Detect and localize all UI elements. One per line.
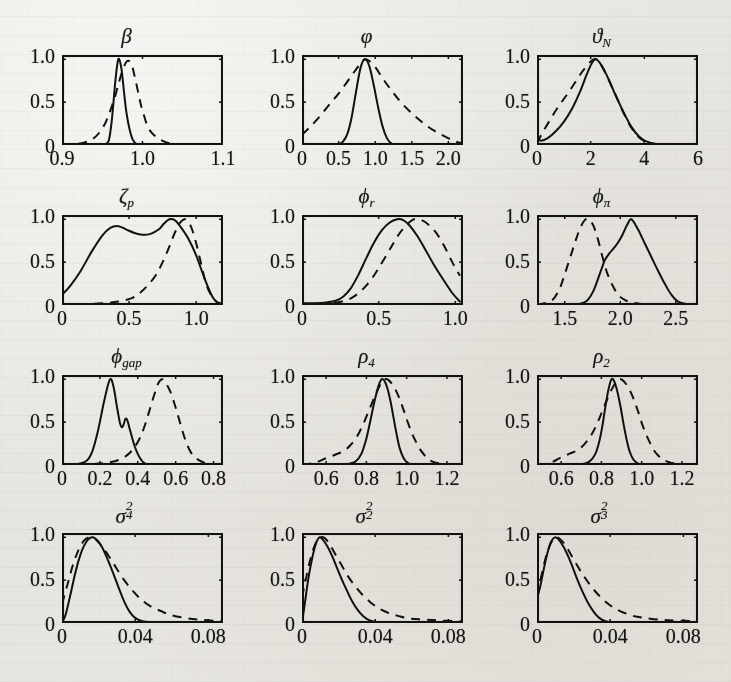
y-tick-label: 0.5 [30, 91, 55, 111]
plot-area [62, 375, 223, 465]
x-tick-label: 1.0 [130, 148, 155, 168]
x-tick-label: 1.0 [443, 308, 468, 328]
density-curve-posterior [62, 59, 223, 145]
y-axis-labels: 1.00.50 [5, 533, 57, 623]
x-axis-labels: 00.040.08 [5, 626, 248, 652]
x-axis-labels: 0.60.81.01.2 [245, 468, 488, 494]
plot-area [302, 375, 463, 465]
y-axis-labels: 1.00.50 [5, 215, 57, 305]
y-tick-label: 1.0 [505, 366, 530, 386]
y-tick-label: 0.5 [505, 91, 530, 111]
x-tick-label: 0 [57, 626, 67, 646]
plot-area [537, 55, 698, 145]
density-curve-posterior [537, 537, 698, 623]
y-axis-labels: 1.00.50 [5, 375, 57, 465]
y-axis-labels: 1.00.50 [5, 55, 57, 145]
y-tick-label: 0.5 [30, 569, 55, 589]
x-tick-label: 0.04 [593, 626, 628, 646]
plot-frame [538, 534, 697, 622]
y-axis-labels: 1.00.50 [480, 55, 532, 145]
x-tick-label: 0.08 [666, 626, 701, 646]
y-tick-label: 1.0 [30, 366, 55, 386]
plot-panel-zeta_p: ζp1.00.5000.51.0 [5, 182, 248, 342]
x-tick-label: 0.2 [87, 468, 112, 488]
x-axis-labels: 00.040.08 [245, 626, 488, 652]
x-tick-label: 0 [297, 148, 307, 168]
y-axis-labels: 1.00.50 [245, 375, 297, 465]
y-tick-label: 1.0 [270, 366, 295, 386]
panel-grid: β1.00.500.91.01.1φ1.00.5000.51.01.52.0ϑN… [0, 0, 731, 682]
x-tick-label: 0.5 [117, 308, 142, 328]
y-tick-label: 0.5 [30, 411, 55, 431]
x-tick-label: 1.0 [363, 148, 388, 168]
y-tick-label: 1.0 [30, 524, 55, 544]
x-tick-label: 0.5 [366, 308, 391, 328]
density-curve-prior [302, 59, 463, 143]
x-tick-label: 4 [639, 148, 649, 168]
y-tick-label: 1.0 [270, 524, 295, 544]
plot-area [62, 55, 223, 145]
y-tick-label: 1.0 [30, 206, 55, 226]
x-tick-label: 0.8 [201, 468, 226, 488]
y-tick-label: 0.5 [270, 91, 295, 111]
density-curve-prior [62, 379, 223, 465]
y-axis-labels: 1.00.50 [480, 375, 532, 465]
plot-area [537, 215, 698, 305]
x-tick-label: 0 [532, 626, 542, 646]
x-tick-label: 1.5 [552, 308, 577, 328]
density-curve-posterior [302, 59, 463, 145]
density-curve-prior [537, 59, 698, 145]
y-tick-label: 1.0 [30, 46, 55, 66]
x-axis-labels: 0246 [480, 148, 723, 174]
density-curve-posterior [62, 537, 223, 623]
plot-panel-sigma_2^2: σ221.00.5000.040.08 [245, 500, 488, 660]
density-curve-posterior [62, 379, 223, 465]
plot-panel-beta: β1.00.500.91.01.1 [5, 22, 248, 182]
x-axis-labels: 1.52.02.5 [480, 308, 723, 334]
x-tick-label: 1.0 [629, 468, 654, 488]
plot-area [537, 375, 698, 465]
plot-panel-varphi: φ1.00.5000.51.01.52.0 [245, 22, 488, 182]
plot-panel-sigma_4^2: σ241.00.5000.040.08 [5, 500, 248, 660]
figure-page: β1.00.500.91.01.1φ1.00.5000.51.01.52.0ϑN… [0, 0, 731, 682]
x-tick-label: 0.9 [50, 148, 75, 168]
plot-area [302, 215, 463, 305]
x-tick-label: 0 [297, 308, 307, 328]
y-axis-labels: 1.00.50 [245, 215, 297, 305]
y-tick-label: 0.5 [505, 569, 530, 589]
x-tick-label: 6 [693, 148, 703, 168]
x-tick-label: 2.0 [608, 308, 633, 328]
y-tick-label: 0.5 [270, 411, 295, 431]
x-tick-label: 0.5 [326, 148, 351, 168]
y-tick-label: 1.0 [505, 206, 530, 226]
density-curve-posterior [537, 379, 698, 465]
density-curve-prior [302, 379, 463, 465]
x-axis-labels: 0.60.81.01.2 [480, 468, 723, 494]
x-tick-label: 0 [532, 148, 542, 168]
x-tick-label: 1.0 [184, 308, 209, 328]
plot-frame [63, 56, 222, 144]
plot-panel-rho_4: ρ41.00.500.60.81.01.2 [245, 342, 488, 502]
y-axis-labels: 1.00.50 [245, 533, 297, 623]
density-curve-prior [302, 537, 463, 621]
density-curve-posterior [537, 219, 698, 305]
density-curve-prior [537, 219, 698, 305]
x-tick-label: 2 [586, 148, 596, 168]
plot-area [302, 533, 463, 623]
plot-frame [303, 376, 462, 464]
x-tick-label: 0.4 [125, 468, 150, 488]
y-axis-labels: 1.00.50 [480, 215, 532, 305]
x-tick-label: 0 [57, 308, 67, 328]
plot-area [62, 215, 223, 305]
plot-frame [63, 376, 222, 464]
x-tick-label: 0.08 [191, 626, 226, 646]
plot-panel-phi_gap: ϕgap1.00.5000.20.40.60.8 [5, 342, 248, 502]
x-axis-labels: 00.51.01.52.0 [245, 148, 488, 174]
density-curve-prior [62, 61, 223, 145]
plot-frame [538, 216, 697, 304]
y-tick-label: 0.5 [505, 251, 530, 271]
y-tick-label: 0.5 [270, 251, 295, 271]
density-curve-prior [537, 537, 698, 621]
density-curve-prior [62, 537, 223, 621]
x-tick-label: 0.8 [589, 468, 614, 488]
